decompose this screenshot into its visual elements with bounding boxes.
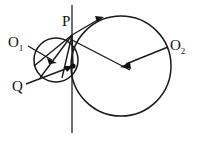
label-o1-base: O (8, 34, 19, 50)
label-p-text: P (62, 13, 70, 29)
leader-o1 (28, 46, 52, 60)
label-q: Q (12, 79, 23, 94)
label-o2: O2 (170, 38, 185, 56)
label-o1-subscript: 1 (19, 43, 24, 53)
figure-canvas (0, 0, 199, 142)
leader-o2 (126, 47, 168, 64)
chord-large-circle (72, 40, 130, 70)
label-o2-base: O (170, 37, 181, 53)
tangent-point-marker (70, 63, 75, 68)
label-o2-subscript: 2 (181, 46, 186, 56)
geometry-figure: P Q O1 O2 (0, 0, 199, 142)
label-p: P (62, 14, 70, 29)
label-o1: O1 (8, 35, 23, 53)
label-q-text: Q (12, 78, 23, 94)
arrowhead-o1 (47, 58, 57, 64)
